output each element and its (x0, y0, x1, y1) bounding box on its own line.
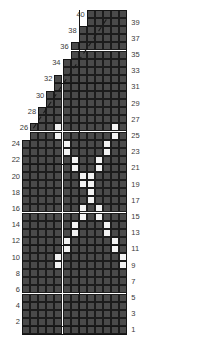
grid-left-step-border (22, 326, 23, 334)
grid-left-step-border (54, 83, 55, 91)
grid-step-top-border (22, 140, 30, 141)
heavy-horizontal-gridline (54, 83, 127, 84)
grid-left-step-border (79, 26, 80, 34)
grid-step-top-border (79, 26, 87, 27)
grid-left-step-border (22, 318, 23, 326)
grid-left-step-border (46, 99, 47, 107)
grid-left-step-border (22, 229, 23, 237)
grid-left-step-border (22, 164, 23, 172)
grid-left-step-border (22, 253, 23, 261)
center-heavy-gridline (79, 10, 80, 334)
grid-left-step-border (87, 18, 88, 26)
heavy-gridlines (0, 0, 198, 345)
grid-left-step-border (22, 285, 23, 293)
grid-step-top-border (46, 91, 54, 92)
grid-left-step-border (22, 188, 23, 196)
grid-left-step-border (22, 269, 23, 277)
grid-left-step-border (71, 51, 72, 59)
grid-left-step-border (22, 261, 23, 269)
grid-left-step-border (54, 75, 55, 83)
grid-left-step-border (22, 156, 23, 164)
grid-left-step-border (87, 10, 88, 18)
grid-left-step-border (22, 180, 23, 188)
grid-step-top-border (38, 107, 46, 108)
grid-left-step-border (63, 67, 64, 75)
grid-left-step-border (22, 148, 23, 156)
grid-bottom-border (22, 334, 127, 335)
grid-right-border (126, 10, 127, 334)
grid-left-step-border (30, 123, 31, 131)
grid-left-step-border (63, 59, 64, 67)
grid-step-top-border (30, 123, 38, 124)
grid-left-step-border (22, 237, 23, 245)
grid-left-step-border (22, 310, 23, 318)
grid-left-step-border (30, 132, 31, 140)
heavy-horizontal-gridline (22, 164, 127, 165)
grid-left-step-border (22, 140, 23, 148)
heavy-horizontal-gridline (22, 245, 127, 246)
grid-left-step-border (38, 115, 39, 123)
grid-step-top-border (63, 59, 71, 60)
grid-step-top-border (71, 42, 79, 43)
grid-left-step-border (22, 213, 23, 221)
grid-left-step-border (22, 294, 23, 302)
grid-left-step-border (22, 245, 23, 253)
grid-step-top-border (54, 75, 62, 76)
grid-left-step-border (46, 91, 47, 99)
stitch-chart: 4038363432302826242220181614121086423937… (0, 0, 198, 345)
grid-left-step-border (38, 107, 39, 115)
grid-left-step-border (22, 196, 23, 204)
grid-left-step-border (22, 302, 23, 310)
grid-left-step-border (79, 34, 80, 42)
grid-left-step-border (22, 172, 23, 180)
heavy-horizontal-gridline (87, 10, 128, 11)
heavy-horizontal-gridline (22, 326, 127, 327)
grid-left-step-border (22, 204, 23, 212)
grid-left-step-border (22, 221, 23, 229)
grid-left-step-border (71, 42, 72, 50)
grid-left-step-border (22, 277, 23, 285)
